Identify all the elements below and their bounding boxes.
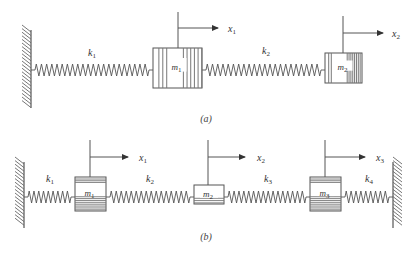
displacement-label-x2: x2	[391, 28, 400, 41]
spring-label-k3: k3	[264, 173, 272, 186]
panel-caption-b: (b)	[200, 231, 212, 243]
displacement-arrow-x2	[343, 16, 383, 53]
displacement-arrow-x1	[178, 12, 218, 48]
displacement-label-x1: x1	[227, 23, 236, 36]
spring-k2	[106, 191, 194, 203]
spring-label-k2: k2	[262, 45, 270, 58]
spring-label-k4: k4	[365, 173, 373, 186]
displacement-label-x2: x2	[256, 152, 265, 165]
panel-b-three-mass-system: k1k2k3k4m1x1m2x2m3x3(b)	[15, 140, 402, 243]
spring-k4	[341, 191, 393, 203]
two-mass-and-three-mass-spring-systems-figure: k1k2m1x1m2x2(a) k1k2k3k4m1x1m2x2m3x3(b)	[0, 0, 417, 254]
displacement-arrow-x1	[90, 140, 128, 177]
panel-a-two-mass-system: k1k2m1x1m2x2(a)	[22, 12, 400, 125]
displacement-arrow-x3	[325, 140, 365, 177]
spring-k1	[31, 64, 153, 76]
spring-k3	[224, 191, 310, 203]
spring-label-k2: k2	[146, 173, 154, 186]
spring-k2	[202, 64, 325, 76]
displacement-arrow-x2	[208, 140, 245, 185]
displacement-label-x1: x1	[138, 152, 147, 165]
right-fixed-wall	[393, 157, 402, 228]
panel-caption-a: (a)	[200, 113, 212, 125]
spring-label-k1: k1	[46, 173, 54, 186]
spring-mass-diagram: k1k2m1x1m2x2(a) k1k2k3k4m1x1m2x2m3x3(b)	[0, 0, 417, 254]
spring-k1	[24, 191, 75, 203]
displacement-label-x3: x3	[375, 152, 384, 165]
left-fixed-wall	[15, 157, 24, 228]
spring-label-k1: k1	[88, 47, 96, 60]
left-fixed-wall	[22, 25, 31, 108]
